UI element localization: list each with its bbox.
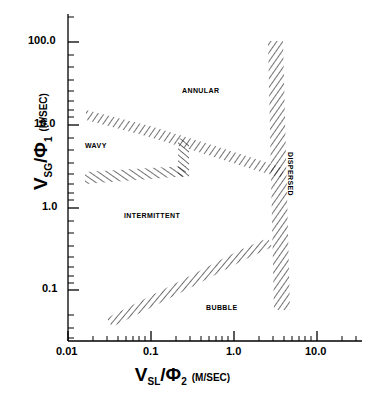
- y-axis-ticks: [68, 17, 79, 338]
- x-tick-label-10.0: 10.0: [305, 345, 326, 357]
- x-tick-label-0.1: 0.1: [143, 345, 158, 357]
- x-axis-title: VSL/Φ2(M/SEC): [0, 364, 365, 387]
- y-axis-title: VSG/Φ1(M/SEC): [30, 82, 53, 202]
- x-axis-title-phi: Φ: [166, 364, 182, 385]
- x-axis-ticks: [68, 331, 356, 341]
- flow-regime-map-figure: 100.0 10.0 1.0 0.1 0.01 0.1 1.0 10.0 ANN…: [0, 0, 365, 396]
- y-tick-label-0.1: 0.1: [42, 282, 57, 294]
- x-axis-title-units: (M/SEC): [187, 372, 230, 383]
- y-axis-title-sub: SG: [43, 163, 54, 177]
- region-label-dispersed: DISPERSED: [287, 152, 294, 196]
- boundary-wavy-right: [178, 138, 189, 177]
- y-tick-label-1: 1.0: [42, 200, 57, 212]
- boundary-bands: [85, 41, 290, 327]
- x-tick-label-1.0: 1.0: [226, 345, 241, 357]
- region-label-annular: ANNULAR: [182, 87, 219, 94]
- boundary-bubble: [107, 238, 272, 327]
- boundary-wavy-lower: [85, 166, 186, 184]
- x-axis-title-v: V: [135, 364, 148, 385]
- region-label-bubble: BUBBLE: [206, 304, 238, 311]
- chart-canvas: [0, 0, 365, 396]
- x-axis-title-sub: SL: [148, 376, 161, 387]
- y-axis-title-phi: Φ: [30, 142, 51, 158]
- x-axis-title-phisub: 2: [181, 376, 187, 387]
- y-tick-label-100: 100.0: [28, 34, 56, 46]
- y-axis-title-phisub: 1: [43, 136, 54, 142]
- y-axis-title-v: V: [30, 177, 51, 190]
- x-tick-label-0.01: 0.01: [56, 345, 77, 357]
- region-label-wavy: WAVY: [85, 142, 107, 149]
- y-axis-title-units: (M/SEC): [38, 93, 49, 136]
- region-label-intermittent: INTERMITTENT: [124, 212, 180, 219]
- y-axis-title-slash: /: [30, 158, 51, 163]
